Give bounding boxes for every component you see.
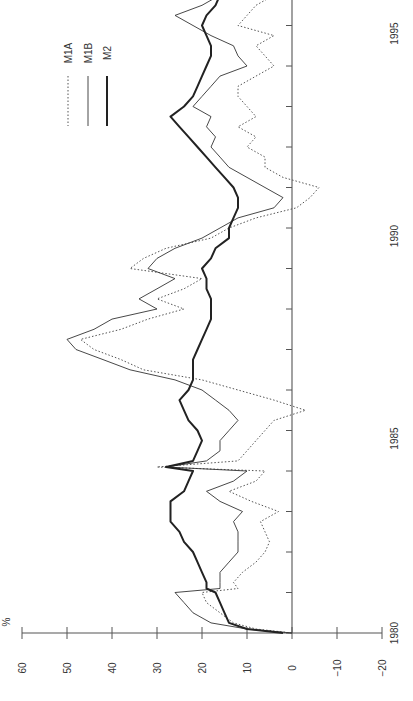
legend-label-m1a: M1A [63,42,74,63]
growth-rate-chart: 6050403020100−10−20%1980198519901995 M1A… [0,0,413,701]
value-tick-label: 50 [62,662,73,674]
value-tick-label: 60 [17,662,28,674]
value-tick-label: −10 [332,659,343,676]
series-m1a [81,0,324,633]
value-tick-label: 10 [242,662,253,674]
value-tick-label: 0 [287,665,298,671]
series-lines [67,0,324,633]
value-tick-label: −20 [377,659,388,676]
value-tick-label: 40 [107,662,118,674]
axes: 6050403020100−10−20%1980198519901995 [1,0,400,676]
unit-label: % [1,617,12,626]
legend: M1AM1BM2 [63,42,113,126]
year-label: 1980 [389,621,400,644]
series-m1b [67,0,292,633]
year-label: 1995 [389,22,400,45]
series-m2 [166,0,283,633]
year-label: 1990 [389,224,400,247]
year-label: 1985 [389,427,400,450]
value-tick-label: 20 [197,662,208,674]
legend-label-m1b: M1B [83,42,94,63]
value-tick-label: 30 [152,662,163,674]
legend-label-m2: M2 [102,46,113,60]
